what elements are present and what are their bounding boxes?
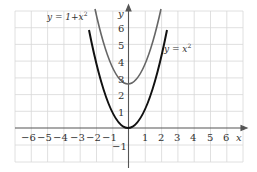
y-tick-label: 6 bbox=[118, 23, 124, 34]
y-tick-label: 3 bbox=[118, 74, 124, 85]
x-tick-label: −4 bbox=[53, 132, 68, 143]
x-tick-label: 4 bbox=[190, 132, 196, 143]
equation-text: y = 1+x bbox=[46, 12, 84, 22]
equation-label-gray: y = 1+x2 bbox=[46, 10, 88, 22]
svg-text:y = x2: y = x2 bbox=[163, 42, 191, 54]
equation-text: y = x bbox=[163, 44, 187, 54]
x-tick-labels: −6 −5 −4 −3 −2 −1 1 2 3 4 5 6 x bbox=[21, 132, 242, 143]
x-axis-label: x bbox=[236, 132, 242, 143]
y-tick-label: 2 bbox=[118, 90, 124, 101]
axes bbox=[15, 5, 247, 168]
x-tick-label: −2 bbox=[86, 132, 101, 143]
y-tick-labels: 6 5 4 3 2 1 −1 y bbox=[112, 8, 127, 152]
x-tick-label: 3 bbox=[174, 132, 180, 143]
superscript: 2 bbox=[187, 42, 191, 49]
superscript: 2 bbox=[84, 10, 88, 17]
x-tick-label: 5 bbox=[207, 132, 213, 143]
x-tick-label: 1 bbox=[142, 132, 148, 143]
y-tick-label: −1 bbox=[112, 141, 127, 152]
y-axis-label: y bbox=[117, 8, 124, 19]
y-tick-label: 5 bbox=[118, 40, 124, 51]
x-tick-label: −6 bbox=[21, 132, 36, 143]
parabola-chart: −6 −5 −4 −3 −2 −1 1 2 3 4 5 6 x 6 5 4 3 … bbox=[0, 0, 257, 172]
x-axis-arrow-icon bbox=[241, 126, 247, 131]
y-axis-arrow-icon bbox=[126, 5, 131, 11]
svg-text:y = 1+x2: y = 1+x2 bbox=[46, 10, 88, 22]
x-tick-label: −5 bbox=[37, 132, 52, 143]
x-tick-label: 2 bbox=[158, 132, 164, 143]
y-tick-label: 4 bbox=[118, 57, 124, 68]
x-tick-label: 6 bbox=[223, 132, 229, 143]
equation-label-black: y = x2 bbox=[163, 42, 191, 54]
x-tick-label: −3 bbox=[70, 132, 85, 143]
y-tick-label: 1 bbox=[118, 107, 124, 118]
